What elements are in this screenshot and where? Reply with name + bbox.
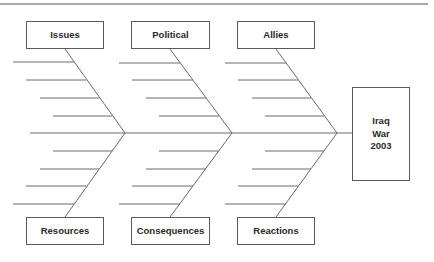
category-label-issues: Issues bbox=[50, 29, 80, 41]
category-label-political: Political bbox=[152, 29, 188, 41]
bone-allies bbox=[225, 49, 337, 133]
category-label-consequences: Consequences bbox=[137, 225, 205, 237]
bone-political bbox=[119, 49, 232, 133]
category-label-resources: Resources bbox=[41, 225, 90, 237]
category-box-allies: Allies bbox=[237, 21, 315, 49]
category-box-reactions: Reactions bbox=[237, 217, 315, 245]
effect-box: Iraq War 2003 bbox=[352, 87, 410, 181]
bone-consequences bbox=[119, 133, 232, 217]
effect-line-3: 2003 bbox=[370, 140, 391, 152]
bone-issues bbox=[13, 49, 125, 133]
category-label-allies: Allies bbox=[263, 29, 288, 41]
category-box-resources: Resources bbox=[26, 217, 104, 245]
category-box-consequences: Consequences bbox=[131, 217, 210, 245]
bone-resources bbox=[13, 133, 125, 217]
category-box-issues: Issues bbox=[26, 21, 104, 49]
effect-line-2: War bbox=[372, 128, 390, 140]
effect-line-1: Iraq bbox=[372, 115, 389, 127]
category-label-reactions: Reactions bbox=[253, 225, 298, 237]
bone-reactions bbox=[225, 133, 337, 217]
category-box-political: Political bbox=[131, 21, 210, 49]
